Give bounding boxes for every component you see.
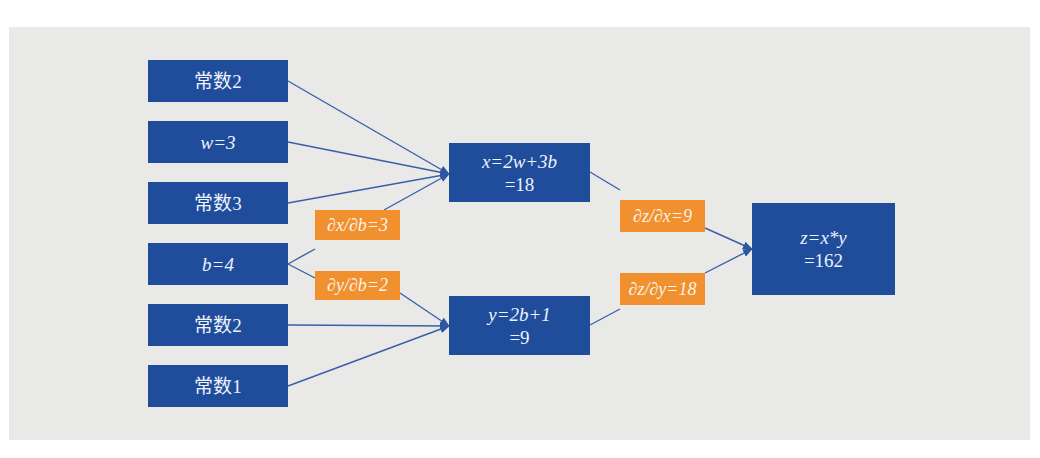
edge-const2b-to-y [288, 325, 449, 326]
node-const3: 常数3 [148, 182, 288, 224]
gradient-dz-dx: ∂z/∂x=9 [620, 200, 705, 232]
gradient-label: ∂y/∂b=2 [327, 275, 388, 296]
gradient-label: ∂z/∂x=9 [633, 206, 692, 227]
node-value: =18 [505, 173, 535, 196]
node-b: b=4 [148, 243, 288, 285]
node-x: x=2w+3b =18 [449, 143, 590, 202]
node-label: w=3 [201, 131, 236, 154]
node-formula: y=2b+1 [488, 303, 551, 326]
gradient-dy-db: ∂y/∂b=2 [315, 271, 400, 300]
node-value: =162 [804, 249, 843, 272]
gradient-label: ∂z/∂y=18 [629, 279, 697, 300]
node-formula: z=x*y [800, 226, 847, 249]
gradient-dz-dy: ∂z/∂y=18 [620, 273, 705, 305]
node-label: 常数1 [194, 375, 242, 398]
edge-y-to-dzdy [590, 309, 620, 325]
edge-const3-to-x [288, 174, 449, 203]
gradient-dx-db: ∂x/∂b=3 [315, 210, 400, 240]
edge-const2-to-x [288, 81, 449, 174]
edge-dzdy-to-z [705, 249, 752, 273]
node-y: y=2b+1 =9 [449, 296, 590, 355]
node-const1: 常数1 [148, 365, 288, 407]
edge-dzdx-to-z [705, 228, 752, 249]
edge-b-to-dxdb [288, 249, 315, 264]
edge-x-to-dzdx [590, 172, 620, 190]
node-label: 常数2 [194, 314, 242, 337]
node-const2-bottom: 常数2 [148, 304, 288, 346]
node-w: w=3 [148, 121, 288, 163]
edge-dydb-to-y [400, 293, 449, 326]
edge-const1-to-y [288, 326, 449, 386]
gradient-label: ∂x/∂b=3 [327, 215, 388, 236]
node-const2-top: 常数2 [148, 60, 288, 102]
edge-w-to-x [288, 142, 449, 174]
node-formula: x=2w+3b [482, 150, 557, 173]
node-z: z=x*y =162 [752, 203, 895, 295]
node-value: =9 [509, 326, 529, 349]
node-label: b=4 [202, 253, 234, 276]
node-label: 常数2 [194, 70, 242, 93]
node-label: 常数3 [194, 192, 242, 215]
edge-b-to-dydb [288, 264, 315, 278]
